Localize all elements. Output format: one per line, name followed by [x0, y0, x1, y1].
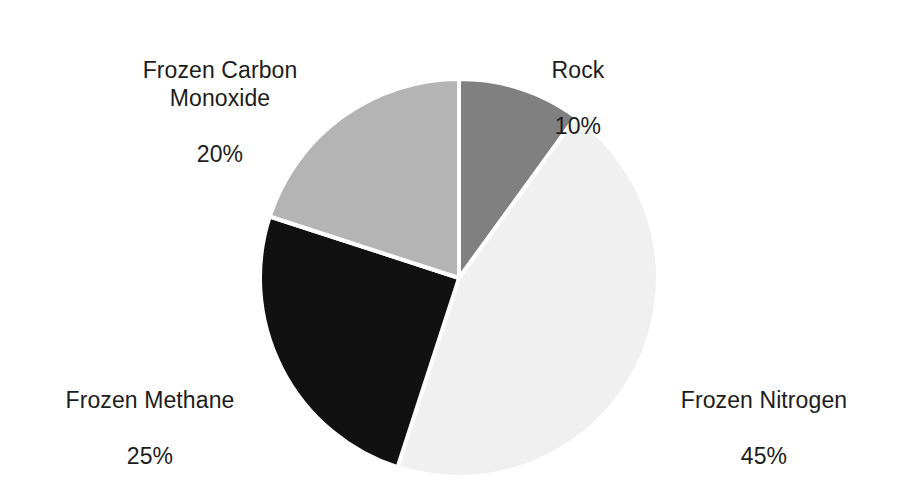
slice-label-name: Frozen Nitrogen — [648, 386, 880, 414]
slice-label-value: 10% — [488, 112, 668, 140]
slice-label-value: 45% — [648, 442, 880, 470]
pie-chart: Frozen Carbon Monoxide 20% Rock 10% Froz… — [0, 0, 912, 504]
slice-label-frozen-methane: Frozen Methane 25% — [34, 358, 266, 498]
slice-label-value: 25% — [34, 442, 266, 470]
slice-label-frozen-nitrogen: Frozen Nitrogen 45% — [648, 358, 880, 498]
slice-label-name: Frozen Methane — [34, 386, 266, 414]
slice-label-value: 20% — [108, 140, 332, 168]
slice-label-rock: Rock 10% — [488, 28, 668, 168]
slice-label-name: Rock — [488, 56, 668, 84]
slice-label-name: Frozen Carbon Monoxide — [108, 56, 332, 112]
slice-label-frozen-carbon-monoxide: Frozen Carbon Monoxide 20% — [108, 28, 332, 196]
